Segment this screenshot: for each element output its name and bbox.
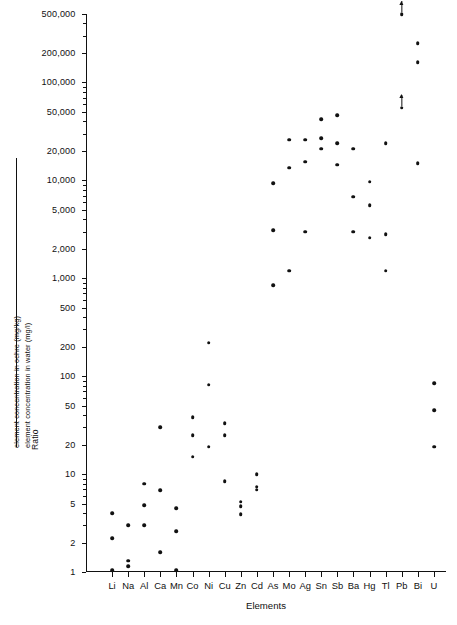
x-axis-tick-label-hg: Hg (364, 580, 376, 591)
y-axis-minor-tick (83, 496, 86, 497)
y-axis-tick: 500,000 (82, 14, 87, 15)
x-axis-tick (321, 572, 322, 577)
y-axis-minor-tick (83, 398, 86, 399)
data-point (271, 283, 275, 287)
data-point (191, 433, 195, 437)
y-axis-tick: 1,000 (82, 278, 87, 279)
data-point (303, 230, 307, 234)
x-axis-tick (193, 572, 194, 577)
y-axis-tick: 1 (82, 572, 87, 573)
y-axis-tick: 2,000 (82, 249, 87, 250)
y-axis-label: Ratio element concentration in ochre (mg… (0, 150, 46, 450)
y-axis-tick-label: 200,000 (42, 48, 76, 58)
data-point (110, 568, 114, 572)
data-point (271, 228, 275, 232)
data-point (319, 118, 323, 122)
x-axis-tick (257, 572, 258, 577)
y-axis-minor-tick (83, 121, 86, 122)
plot-area: 500,000200,000100,00050,00020,00010,0005… (86, 14, 446, 572)
x-axis-tick-label-pb: Pb (396, 580, 407, 591)
y-axis-minor-tick (83, 329, 86, 330)
data-point (287, 166, 291, 170)
data-point (416, 42, 420, 46)
y-axis-tick: 2 (82, 543, 87, 544)
x-axis-tick (402, 572, 403, 577)
y-axis-minor-tick (83, 196, 86, 197)
y-axis-minor-tick (83, 219, 86, 220)
y-axis-tick-label: 100,000 (42, 77, 76, 87)
data-point (223, 433, 227, 437)
y-axis-tick-label: 1,000 (52, 273, 76, 283)
y-axis-minor-tick (83, 104, 86, 105)
x-axis-tick-label-as: As (268, 580, 279, 591)
x-axis-tick-label-ca: Ca (154, 580, 166, 591)
data-point (384, 141, 388, 145)
y-axis-minor-tick (83, 202, 86, 203)
data-point (287, 138, 291, 142)
y-axis-tick-label: 10 (65, 469, 75, 479)
data-point (352, 230, 356, 234)
y-axis-tick-label: 1 (70, 567, 75, 577)
y-axis-tick: 10,000 (82, 180, 87, 181)
data-point (271, 181, 275, 185)
y-axis-tick-label: 50,000 (47, 107, 76, 117)
y-axis-tick-label: 5 (70, 499, 75, 509)
data-point (159, 550, 163, 554)
x-axis-tick-label-zn: Zn (235, 580, 246, 591)
y-axis-minor-tick (83, 87, 86, 88)
greater-than-arrow-icon (401, 1, 402, 12)
data-point (303, 138, 307, 142)
data-point (368, 236, 372, 240)
x-axis-line (86, 571, 446, 572)
data-point (207, 445, 211, 449)
y-axis-minor-tick (83, 288, 86, 289)
y-axis-label-denominator: element concentration in water (mg/l) (23, 323, 32, 448)
y-axis-minor-tick (83, 92, 86, 93)
x-axis-tick-label-sb: Sb (332, 580, 343, 591)
y-axis-minor-tick (83, 386, 86, 387)
y-axis-tick: 50 (82, 406, 87, 407)
y-axis-minor-tick (83, 391, 86, 392)
x-axis-tick (386, 572, 387, 577)
y-axis-tick: 100 (82, 376, 87, 377)
data-point (175, 568, 179, 572)
data-point (432, 381, 436, 385)
x-axis-tick-label-ag: Ag (299, 580, 310, 591)
x-axis-tick-label-ni: Ni (204, 580, 213, 591)
data-point (110, 537, 114, 541)
x-axis-tick (305, 572, 306, 577)
x-axis-tick (160, 572, 161, 577)
x-axis-label: Elements (86, 600, 446, 611)
x-axis-tick (112, 572, 113, 577)
y-axis-tick: 100,000 (82, 82, 87, 83)
x-axis-tick-label-cd: Cd (251, 580, 263, 591)
y-axis-tick-label: 10,000 (47, 175, 76, 185)
data-point (159, 489, 163, 493)
x-axis-tick (418, 572, 419, 577)
y-axis-tick-label: 5,000 (52, 205, 76, 215)
x-axis-tick-label-u: U (431, 580, 438, 591)
data-point (432, 408, 436, 412)
x-axis-tick (144, 572, 145, 577)
x-axis-tick (434, 572, 435, 577)
y-axis-tick: 200,000 (82, 53, 87, 54)
data-point (368, 203, 372, 207)
data-point (352, 147, 356, 151)
y-axis-minor-tick (83, 134, 86, 135)
y-axis-minor-tick (83, 381, 86, 382)
data-point (368, 180, 372, 184)
y-axis-minor-tick (83, 190, 86, 191)
data-point (336, 141, 340, 145)
y-axis-minor-tick (83, 479, 86, 480)
y-axis-tick-label: 200 (60, 342, 76, 352)
data-point (110, 511, 114, 515)
data-point (239, 504, 243, 508)
y-axis-minor-tick (83, 293, 86, 294)
data-point (319, 147, 323, 151)
y-axis-line (86, 14, 87, 572)
y-axis-tick-label: 2 (70, 538, 75, 548)
x-axis-tick-label-sn: Sn (316, 580, 327, 591)
scatter-chart-figure: Ratio element concentration in ochre (mg… (0, 0, 457, 625)
y-axis-minor-tick (83, 185, 86, 186)
x-axis-tick (225, 572, 226, 577)
